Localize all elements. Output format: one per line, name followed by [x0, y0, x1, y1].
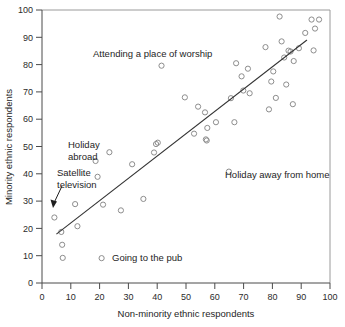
x-axis-title: Non-minority ethnic respondents [118, 308, 255, 319]
y-tick-label: 100 [18, 5, 33, 15]
data-point [263, 45, 268, 50]
data-point [202, 110, 207, 115]
data-point [303, 30, 308, 35]
annotation-holiday-away: Holiday away from home [225, 169, 330, 180]
y-tick-label: 40 [23, 169, 33, 179]
y-axis: 0102030405060708090100 [18, 5, 42, 288]
x-tick-label: 20 [95, 292, 105, 302]
data-point [75, 224, 80, 229]
y-tick-label: 0 [28, 278, 33, 288]
data-point [290, 102, 295, 107]
y-tick-label: 50 [23, 142, 33, 152]
scatter-chart: 0102030405060708090100 01020304050607080… [0, 0, 345, 327]
data-point [266, 107, 271, 112]
data-point [291, 58, 296, 63]
annotation-holiday-abroad-line2: abroad [68, 151, 98, 162]
annotation-attending-worship: Attending a place of worship [93, 48, 212, 59]
data-point [284, 82, 289, 87]
data-point [130, 162, 135, 167]
data-point [279, 39, 284, 44]
data-point [151, 150, 156, 155]
x-tick-label: 0 [39, 292, 44, 302]
data-point [213, 120, 218, 125]
x-axis: 0102030405060708090100 [39, 283, 337, 302]
chart-canvas: 0102030405060708090100 01020304050607080… [0, 0, 345, 327]
x-tick-label: 80 [267, 292, 277, 302]
x-tick-label: 70 [239, 292, 249, 302]
data-point [247, 91, 252, 96]
data-point [205, 125, 210, 130]
y-tick-label: 10 [23, 251, 33, 261]
y-tick-label: 30 [23, 196, 33, 206]
data-point [245, 66, 250, 71]
data-point [99, 256, 104, 261]
x-tick-label: 10 [66, 292, 76, 302]
data-point [118, 208, 123, 213]
data-point [191, 131, 196, 136]
x-tick-group: 0102030405060708090100 [39, 283, 337, 302]
annotation-satellite-line1: Satellite [57, 167, 91, 178]
data-point [269, 79, 274, 84]
regression-line [56, 40, 307, 234]
data-point [234, 61, 239, 66]
data-point [271, 69, 276, 74]
y-axis-title: Minority ethnic respondents [3, 89, 14, 205]
y-tick-label: 90 [23, 33, 33, 43]
x-tick-label: 40 [152, 292, 162, 302]
y-tick-group: 0102030405060708090100 [18, 5, 42, 288]
x-tick-label: 60 [210, 292, 220, 302]
data-point [273, 95, 278, 100]
data-point [73, 202, 78, 207]
data-point [107, 150, 112, 155]
data-point [159, 63, 164, 68]
arrow-head-icon [51, 200, 58, 209]
x-tick-label: 30 [123, 292, 133, 302]
data-point [100, 202, 105, 207]
y-tick-label: 80 [23, 60, 33, 70]
y-tick-label: 70 [23, 87, 33, 97]
data-point [195, 104, 200, 109]
x-tick-label: 100 [322, 292, 337, 302]
data-point [311, 48, 316, 53]
annotation-satellite-line2: television [57, 179, 97, 190]
data-point [60, 255, 65, 260]
data-point [52, 215, 57, 220]
data-point [60, 242, 65, 247]
data-point [277, 14, 282, 19]
data-point [309, 17, 314, 22]
y-tick-label: 20 [23, 224, 33, 234]
annotation-holiday-abroad-line1: Holiday [68, 139, 100, 150]
x-tick-label: 50 [181, 292, 191, 302]
data-point [182, 95, 187, 100]
x-tick-label: 90 [296, 292, 306, 302]
data-point [141, 196, 146, 201]
data-point [239, 74, 244, 79]
y-tick-label: 60 [23, 114, 33, 124]
data-point [316, 17, 321, 22]
data-point [232, 120, 237, 125]
annotation-going-to-pub: Going to the pub [112, 252, 182, 263]
data-point [312, 26, 317, 31]
